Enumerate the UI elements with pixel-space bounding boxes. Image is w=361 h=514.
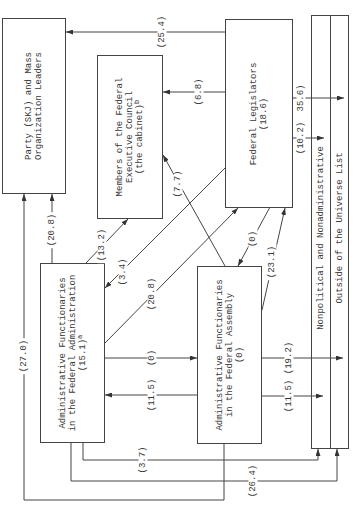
flow-label: (3.7): [139, 444, 148, 475]
node-value: (15.1)a: [78, 275, 88, 432]
flow-label: (7.7): [174, 168, 183, 199]
flow-label: (11.5): [148, 377, 157, 413]
node-nonpolitical-nonadministrative: Nonpolitical and Nonadministrative: [311, 15, 331, 449]
node-federal-legislators: Federal Legislators (18.6): [225, 19, 293, 208]
node-label-line: Administrative Functionaries: [58, 275, 68, 432]
node-label-line: Organization Leaders: [34, 52, 44, 160]
flow-label: (6.8): [195, 76, 204, 107]
flow-label: (10.2): [297, 120, 306, 156]
node-label-line: Party (SKJ) and Mass: [24, 52, 34, 160]
flow-label: (26.4): [249, 463, 258, 499]
node-label-text: (the cabinet): [135, 104, 145, 174]
node-federal-legislators-text: Federal Legislators (18.6): [249, 62, 269, 165]
footnote-marker: a: [76, 335, 84, 339]
flow-label: (0): [148, 348, 157, 368]
node-label-line: in the Federal Administration: [68, 275, 78, 432]
node-party-leaders-text: Party (SKJ) and Mass Organization Leader…: [24, 52, 44, 160]
node-federal-executive-council: Members of the Federal Executive Council…: [97, 55, 163, 219]
flow-label: (19.2): [285, 340, 294, 376]
node-label-line: Executive Council: [125, 78, 135, 197]
flow-label: (25.4): [158, 14, 167, 50]
flow-label: (11.5): [285, 378, 294, 414]
node-admin-federal-administration-text: Administrative Functionaries in the Fede…: [58, 275, 88, 432]
node-outside-text: Outside of the Universe List: [335, 152, 345, 303]
node-party-leaders: Party (SKJ) and Mass Organization Leader…: [2, 18, 66, 194]
flow-label: (20.8): [48, 212, 57, 248]
flow-label: (20.8): [148, 276, 157, 312]
node-value: (18.6): [259, 62, 269, 165]
node-nonpolitical-text: Nonpolitical and Nonadministrative: [316, 146, 326, 330]
flow-admin-to-nonpolitical: [83, 442, 318, 460]
node-label-line: Administrative Functionaries: [215, 279, 225, 430]
node-value-text: (15.1): [78, 339, 88, 371]
flow-label: (23.1): [268, 244, 277, 280]
flow-admin-to-outside: [71, 442, 337, 481]
footnote-marker: b: [133, 100, 141, 104]
node-admin-federal-assembly-text: Administrative Functionaries in the Fede…: [215, 279, 245, 430]
node-admin-federal-administration: Administrative Functionaries in the Fede…: [40, 263, 105, 443]
flow-label: 35.6): [297, 82, 306, 113]
node-admin-federal-assembly: Administrative Functionaries in the Fede…: [197, 266, 262, 444]
flow-label: (0): [249, 229, 258, 249]
node-federal-executive-council-text: Members of the Federal Executive Council…: [115, 78, 145, 197]
node-label-line: Federal Legislators: [249, 62, 259, 165]
node-label-line: Nonpolitical and Nonadministrative: [316, 146, 326, 330]
flow-label: (3.4): [119, 256, 128, 287]
node-label-line: (the cabinet)b: [135, 78, 145, 197]
node-outside-universe-list: Outside of the Universe List: [330, 15, 349, 449]
node-label-line: Members of the Federal: [115, 78, 125, 197]
flow-label: (13.2): [98, 227, 107, 263]
node-label-line: in the Federal Assembly: [225, 279, 235, 430]
node-label-line: Outside of the Universe List: [335, 152, 345, 303]
node-value: (0): [235, 279, 245, 430]
flow-label: (27.0): [20, 338, 29, 374]
